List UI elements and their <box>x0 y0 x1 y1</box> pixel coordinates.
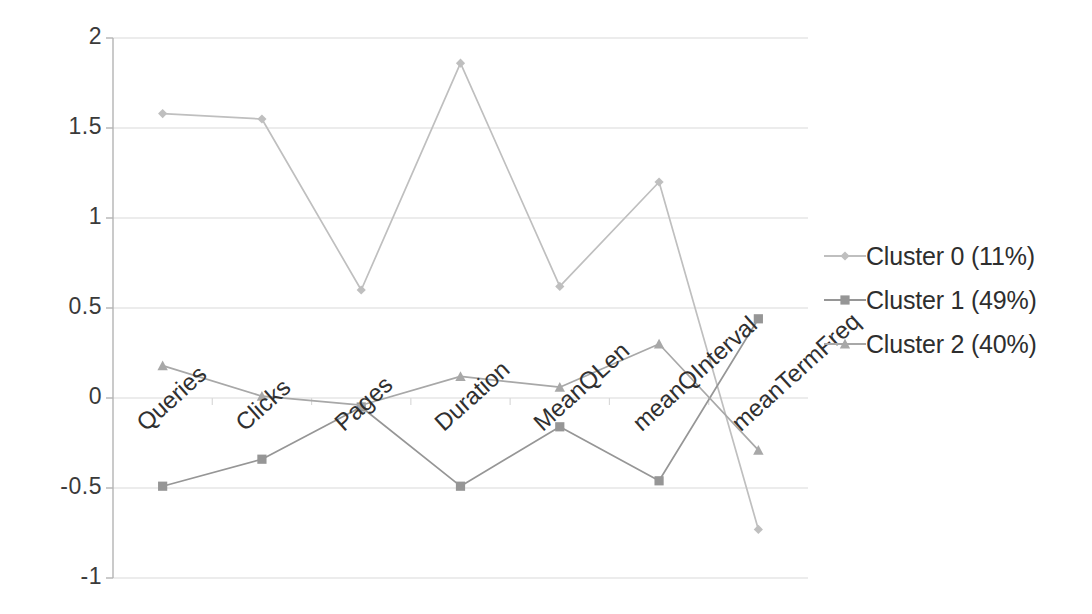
data-point-marker-diamond <box>158 109 167 118</box>
plot-area <box>0 0 830 614</box>
series-line-0 <box>163 63 759 529</box>
legend-marker-cluster-1-icon <box>824 290 866 310</box>
data-point-marker-square <box>654 476 663 485</box>
data-point-marker-square <box>754 314 763 323</box>
legend-marker-square-icon <box>839 294 850 305</box>
y-axis-tick-label: 0.5 <box>30 293 102 320</box>
data-point-marker-diamond <box>257 114 266 123</box>
line-chart: 21.510.50-0.5-1 QueriesClicksPagesDurati… <box>0 0 1092 614</box>
data-point-marker-diamond <box>840 251 849 260</box>
y-axis-tick-labels: 21.510.50-0.5-1 <box>10 0 102 614</box>
y-axis-tick-label: -1 <box>30 563 102 590</box>
plot-svg <box>0 0 830 614</box>
legend-label: Cluster 0 (11%) <box>866 242 1035 271</box>
data-point-marker-triangle <box>654 339 664 349</box>
legend-marker-diamond-icon <box>839 250 850 261</box>
data-point-marker-square <box>257 455 266 464</box>
data-point-marker-diamond <box>357 285 366 294</box>
y-axis-tick-label: 2 <box>30 23 102 50</box>
legend-item[interactable]: Cluster 2 (40%) <box>824 322 1088 366</box>
legend-item[interactable]: Cluster 0 (11%) <box>824 234 1088 278</box>
data-point-marker-square <box>840 295 849 304</box>
y-axis-tick-label: 1 <box>30 203 102 230</box>
legend: Cluster 0 (11%) Cluster 1 (49%) Cluster … <box>824 234 1088 366</box>
data-point-marker-square <box>456 482 465 491</box>
legend-label: Cluster 1 (49%) <box>866 286 1037 315</box>
y-axis-tick-label: -0.5 <box>30 473 102 500</box>
y-axis-tick-label: 1.5 <box>30 113 102 140</box>
data-point-marker-diamond <box>754 525 763 534</box>
data-point-marker-triangle <box>840 339 850 349</box>
legend-label: Cluster 2 (40%) <box>866 330 1037 359</box>
legend-item[interactable]: Cluster 1 (49%) <box>824 278 1088 322</box>
data-point-marker-square <box>158 482 167 491</box>
y-axis-tick-label: 0 <box>30 383 102 410</box>
legend-marker-cluster-0-icon <box>824 246 866 266</box>
legend-marker-cluster-2-icon <box>824 334 866 354</box>
data-point-marker-diamond <box>456 59 465 68</box>
data-point-marker-triangle <box>157 360 167 370</box>
legend-marker-triangle-icon <box>839 338 850 349</box>
